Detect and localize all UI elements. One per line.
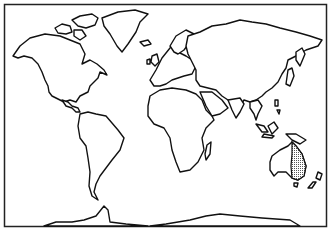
british-isles — [147, 54, 159, 66]
iceland — [140, 40, 151, 46]
new-zealand — [308, 172, 322, 188]
kamchatka — [296, 48, 305, 66]
japan — [286, 68, 294, 86]
world-map: Eastern Australia — [0, 0, 331, 232]
north-america — [13, 34, 107, 102]
antarctica — [44, 206, 148, 226]
world-map-svg — [0, 0, 331, 232]
indonesia — [256, 122, 278, 138]
central-america — [62, 100, 80, 112]
new-guinea — [286, 134, 306, 144]
south-america — [78, 112, 124, 200]
greenland — [102, 10, 148, 52]
madagascar — [205, 142, 211, 160]
tasmania — [294, 183, 298, 187]
southeast-asia — [250, 100, 262, 120]
philippines — [275, 100, 280, 114]
antarctica-east — [150, 214, 300, 226]
india — [228, 98, 244, 118]
highlighted-region-eastern-australia — [291, 142, 306, 180]
